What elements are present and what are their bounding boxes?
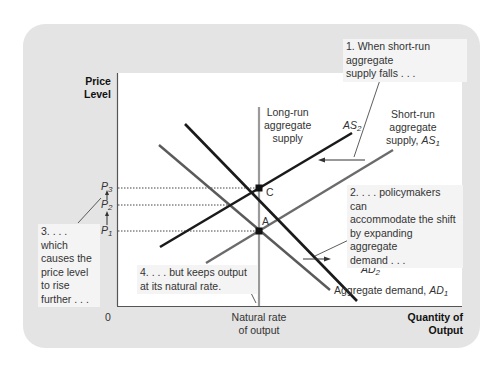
p3-label: P3 [101,180,112,196]
p2-symbol: P [101,198,108,210]
natural-rate-label: Natural rate of output [222,311,296,337]
p1-label: P1 [101,224,112,240]
note-4-line2: at its natural rate. [140,280,254,294]
ad2-subscript: 2 [376,268,380,277]
note-3-line1: 3. . . . which [41,225,97,252]
note-2-line4: demand . . . [350,254,460,268]
p3-subscript: 3 [108,185,112,194]
point-a-label: A [262,215,269,228]
lras-label: Long-run aggregate supply [264,106,311,145]
natural-rate-line2: of output [222,324,296,337]
lras-line3: supply [264,132,311,145]
note-3-line2: causes the [41,252,97,266]
y-axis-title-line1: Price [84,75,111,88]
note-2-line1: 2. . . . policymakers can [350,186,460,213]
lras-line1: Long-run [264,106,311,119]
note4-leader [251,293,256,303]
x-axis-title-line2: Output [400,324,463,337]
ad1-subscript: 1 [444,289,448,298]
p2-label: P2 [101,198,112,214]
note-3-line5: further . . . [41,293,97,307]
note-1-line1: 1. When short-run aggregate [346,40,464,67]
note3-leader [78,198,101,223]
note-2-line3: by expanding aggregate [350,227,460,254]
ad1-symbol: AD [429,284,444,296]
origin-label: 0 [105,311,111,324]
note-3-line3: price level [41,266,97,280]
as2-subscript: 2 [357,124,361,133]
note-1: 1. When short-run aggregate supply falls… [343,39,467,82]
ad1-label: Aggregate demand, AD1 [334,284,448,300]
point-c-marker [256,185,263,192]
p3-symbol: P [101,180,108,192]
p1-symbol: P [101,224,108,236]
note-2: 2. . . . policymakers can accommodate th… [347,185,463,268]
lras-line2: aggregate [264,119,311,132]
note-1-line2: supply falls . . . [346,67,464,81]
as2-label: AS2 [343,119,361,135]
ad-shift-arrowhead-icon [324,257,331,262]
x-axis-title: Quantity of Output [400,311,463,337]
as-shift-arrowhead-icon [318,158,325,163]
x-axis-title-line1: Quantity of [400,311,463,324]
as2-symbol: AS [343,119,357,131]
point-c-label: C [266,186,274,199]
y-axis-title-line2: Level [84,88,111,101]
p2-subscript: 2 [108,203,112,212]
as1-symbol: AS [421,134,435,146]
y-axis-title: Price Level [84,75,111,101]
as1-subscript: 1 [435,139,439,148]
as1-line3: supply, AS1 [386,134,440,150]
ad1-text: Aggregate demand, [334,284,429,296]
as1-line2: aggregate [386,121,440,134]
p1-subscript: 1 [108,229,112,238]
as1-label: Short-run aggregate supply, AS1 [386,108,440,150]
note-2-line2: accommodate the shift [350,213,460,227]
note-4: 4. . . . but keeps output at its natural… [137,265,257,294]
as1-line3-text: supply, [386,134,421,146]
point-a-marker [256,228,263,235]
note-3-line4: to rise [41,279,97,293]
natural-rate-line1: Natural rate [222,311,296,324]
as1-line1: Short-run [386,108,440,121]
note-4-line1: 4. . . . but keeps output [140,266,254,280]
note-3: 3. . . . which causes the price level to… [38,224,100,307]
